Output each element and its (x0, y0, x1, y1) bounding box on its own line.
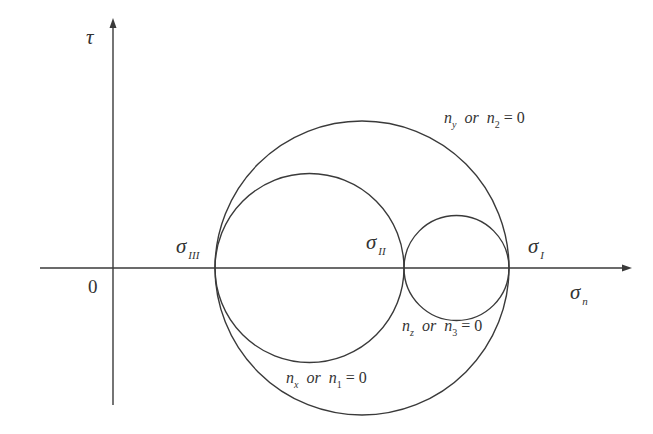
outer-circle-label: ny or n2 = 0 (444, 110, 525, 130)
tau-axis-arrow-icon (110, 18, 117, 28)
origin-label: 0 (88, 277, 98, 296)
left-circle-label: nx or n1 = 0 (286, 370, 367, 390)
sigma-III-label: σIII (176, 236, 199, 261)
right-circle-label: nz or n3 = 0 (402, 318, 482, 338)
sigma-n-axis-label: σn (570, 282, 588, 307)
sigma-I-label: σI (528, 236, 544, 261)
tau-axis-label: τ (86, 27, 94, 48)
sigma-II-label: σII (366, 232, 386, 257)
sigma-axis-arrow-icon (622, 265, 632, 272)
